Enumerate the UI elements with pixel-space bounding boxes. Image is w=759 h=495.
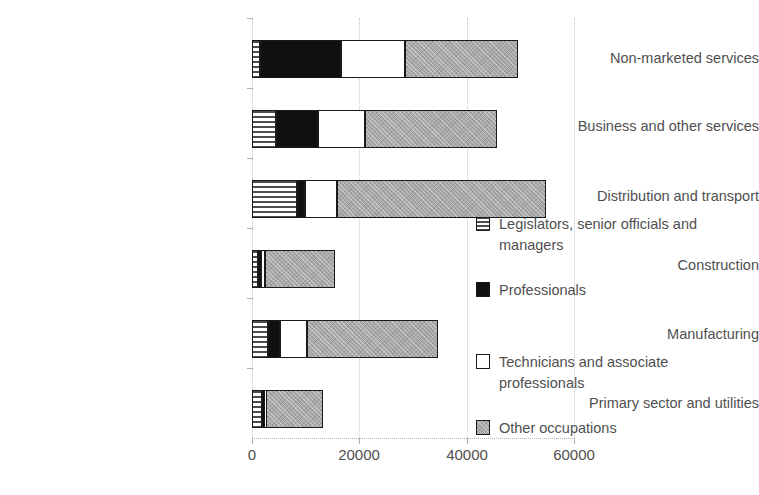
bar-segment-legislators[interactable] (252, 250, 258, 288)
bar-segment-other[interactable] (265, 250, 335, 288)
legend-swatch-legislators-icon (476, 216, 490, 231)
y-axis-tick-0 (247, 18, 253, 19)
y-axis-tick-4 (247, 298, 253, 299)
bar-segment-technicians[interactable] (261, 250, 265, 288)
legend-label-legislators: Legislators, senior officials and manage… (499, 214, 752, 256)
gridline-20000 (359, 18, 360, 438)
bar-segment-other[interactable] (365, 110, 497, 148)
legend-label-other: Other occupations (499, 418, 752, 439)
y-axis-tick-2 (247, 158, 253, 159)
bar-segment-other[interactable] (266, 390, 323, 428)
x-tick-label-0: 0 (212, 446, 292, 463)
bar-segment-other[interactable] (307, 320, 438, 358)
legend-swatch-technicians-icon (476, 354, 490, 369)
bar-segment-professionals[interactable] (260, 40, 341, 78)
bar-segment-technicians[interactable] (341, 40, 406, 78)
legend-swatch-other-icon (476, 420, 490, 435)
gridline-40000 (467, 18, 468, 438)
stacked-bar-chart: Non-marketed services Business and other… (0, 0, 759, 495)
bar-segment-professionals[interactable] (276, 110, 318, 148)
bar-segment-legislators[interactable] (252, 320, 268, 358)
y-axis-tick-3 (247, 228, 253, 229)
bar-segment-legislators[interactable] (252, 180, 297, 218)
legend-item-legislators[interactable]: Legislators, senior officials and manage… (476, 214, 752, 256)
legend-item-professionals[interactable]: Professionals (476, 280, 752, 302)
x-axis-tick-20000 (359, 438, 360, 444)
legend-swatch-professionals-icon (476, 282, 490, 297)
bar-segment-legislators[interactable] (252, 40, 260, 78)
bar-segment-professionals[interactable] (297, 180, 305, 218)
bar-segment-technicians[interactable] (280, 320, 307, 358)
bar-segment-professionals[interactable] (268, 320, 280, 358)
bar-segment-technicians[interactable] (305, 180, 337, 218)
legend-item-other[interactable]: Other occupations (476, 418, 752, 440)
legend-label-professionals: Professionals (499, 280, 752, 301)
bar-segment-other[interactable] (337, 180, 545, 218)
x-tick-label-1: 20000 (319, 446, 399, 463)
legend-item-technicians[interactable]: Technicians and associate professionals (476, 352, 752, 394)
bar-segment-technicians[interactable] (318, 110, 365, 148)
x-axis-tick-0 (252, 438, 253, 444)
x-axis-tick-40000 (467, 438, 468, 444)
bar-segment-other[interactable] (405, 40, 518, 78)
bar-segment-legislators[interactable] (252, 390, 262, 428)
bar-segment-legislators[interactable] (252, 110, 276, 148)
bar-segment-professionals[interactable] (258, 250, 261, 288)
y-axis-tick-5 (247, 368, 253, 369)
y-axis-tick-1 (247, 88, 253, 89)
legend-label-technicians: Technicians and associate professionals (499, 352, 752, 394)
bar-segment-professionals[interactable] (262, 390, 265, 428)
chart-legend: Legislators, senior officials and manage… (476, 214, 752, 456)
